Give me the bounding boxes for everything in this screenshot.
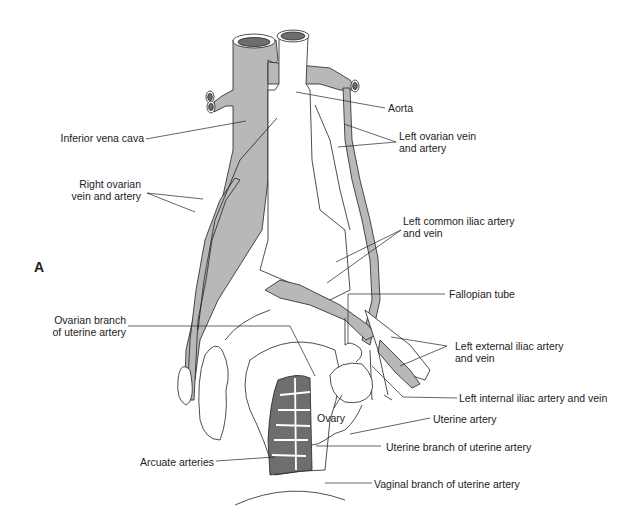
label-inferior-vena-cava: Inferior vena cava xyxy=(60,132,144,144)
label-right-ovarian-vein-and-artery-line1: Right ovarian xyxy=(40,178,141,190)
label-left-internal-iliac: Left internal iliac artery and vein xyxy=(459,392,607,404)
left-ovarian-vein xyxy=(343,88,380,345)
label-left-ovarian-vein-and-artery-line1: Left ovarian vein xyxy=(399,130,476,142)
label-left-common-iliac-line1: Left common iliac artery xyxy=(403,215,514,227)
label-left-common-iliac-line2: and vein xyxy=(403,227,443,239)
label-arcuate-arteries: Arcuate arteries xyxy=(130,456,214,468)
label-uterine-artery: Uterine artery xyxy=(433,413,497,425)
label-fallopian-tube: Fallopian tube xyxy=(449,288,515,300)
label-aorta: Aorta xyxy=(388,102,413,114)
label-left-external-iliac-line1: Left external iliac artery xyxy=(455,340,564,352)
pelvic-vasculature-illustration xyxy=(0,0,639,532)
panel-label: A xyxy=(34,259,44,275)
inferior-vena-cava xyxy=(185,40,278,380)
label-right-ovarian-vein-and-artery-line2: vein and artery xyxy=(40,190,141,202)
label-ovarian-branch-line1: Ovarian branch xyxy=(30,314,126,326)
right-ovary xyxy=(199,346,228,440)
label-ovarian-branch-line2: of uterine artery xyxy=(30,326,126,338)
label-ovary: Ovary xyxy=(317,412,345,424)
label-uterine-branch: Uterine branch of uterine artery xyxy=(386,441,531,453)
label-left-ovarian-vein-and-artery-line2: and artery xyxy=(399,142,446,154)
label-left-external-iliac-line2: and vein xyxy=(455,352,495,364)
label-vaginal-branch: Vaginal branch of uterine artery xyxy=(374,478,520,490)
